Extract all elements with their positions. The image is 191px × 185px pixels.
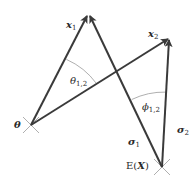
label-sigma2: σ2	[177, 124, 189, 137]
label-phi-angle: ϕ1,2	[142, 101, 160, 114]
vector-diagram: x1 x2 θ E(X) θ1,2 ϕ1,2 σ1 σ2	[0, 0, 191, 185]
label-x1: x1	[65, 19, 76, 32]
vector-mean-to-x2	[162, 40, 169, 167]
vector-origin-to-x2	[31, 39, 168, 125]
label-x2: x2	[147, 28, 158, 41]
vector-origin-to-x1	[31, 16, 87, 125]
phi-angle-arc	[132, 92, 166, 99]
label-sigma1: σ1	[128, 136, 140, 149]
label-theta-angle: θ1,2	[70, 75, 87, 88]
label-mean: E(X)	[126, 160, 149, 171]
label-theta-point: θ	[14, 119, 21, 130]
